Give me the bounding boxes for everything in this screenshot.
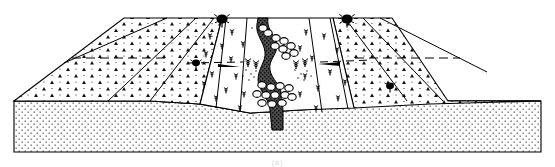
block-diagram-svg <box>0 0 555 167</box>
block-diagram-figure: (a) <box>0 0 555 167</box>
partial-caption: (a) <box>0 158 555 167</box>
left-terrace-group <box>14 18 222 104</box>
right-terrace-group <box>333 18 541 108</box>
